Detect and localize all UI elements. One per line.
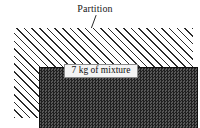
thermodynamics-figure: Partition 7 kg of mixture [0,0,200,128]
partition-annotation-label: Partition [62,3,128,15]
mixture-mass-label: 7 kg of mixture [64,64,138,78]
